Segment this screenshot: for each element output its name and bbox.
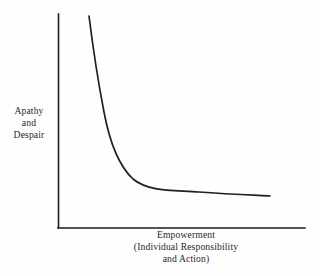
data-curve <box>89 16 270 196</box>
x-axis-label-line-3: and Action) <box>92 253 280 265</box>
y-axis-label-line-2: and <box>2 117 56 129</box>
x-axis-label: Empowerment (Individual Responsibility a… <box>92 229 280 266</box>
x-axis-label-line-1: Empowerment <box>92 229 280 241</box>
y-axis-label: Apathy and Despair <box>2 105 56 142</box>
y-axis-label-line-3: Despair <box>2 129 56 141</box>
y-axis-label-line-1: Apathy <box>2 105 56 117</box>
x-axis-label-line-2: (Individual Responsibility <box>92 241 280 253</box>
chart-figure: Apathy and Despair Empowerment (Individu… <box>0 0 320 276</box>
